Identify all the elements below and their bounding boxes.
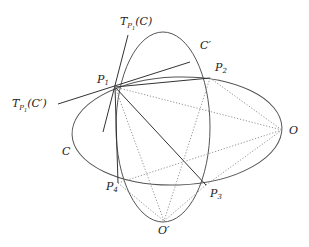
chord-p1-p2	[115, 78, 210, 87]
label-p1: P1	[96, 73, 109, 87]
label-p4: P4	[105, 180, 118, 194]
dotted-p2-oprime	[164, 78, 210, 221]
dotted-p4-oprime	[118, 183, 164, 221]
curve-c	[70, 73, 284, 188]
label-o-prime: O′	[158, 224, 170, 237]
dotted-p3-o	[206, 130, 282, 185]
label-curve-c-prime: C′	[200, 39, 211, 52]
label-tangent-c-prime: TP1(C′)	[12, 97, 47, 113]
dotted-p2-o	[210, 78, 282, 130]
label-p3: P3	[209, 187, 222, 201]
dotted-p3-oprime	[164, 185, 206, 221]
diagram-canvas: TP1(C) TP1(C′) C′ C P1 P2 P3 P4 O O′	[0, 0, 309, 247]
label-p2: P2	[214, 61, 227, 75]
label-o: O	[289, 124, 298, 137]
chord-p1-p3	[115, 87, 206, 185]
tangent-line-c-prime	[58, 62, 190, 104]
label-curve-c: C	[62, 145, 71, 158]
dotted-p4-o	[118, 130, 282, 183]
label-tangent-c: TP1(C)	[120, 15, 152, 31]
